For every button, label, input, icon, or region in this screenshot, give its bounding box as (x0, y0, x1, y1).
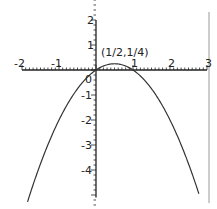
vertex-annotation: (1/2,1/4) (101, 46, 149, 59)
x-tick-label: -1 (51, 57, 62, 70)
tick-labels: -2-112321-1-2-3-4 (14, 14, 212, 177)
y-tick-label: 1 (87, 39, 94, 52)
y-tick-label: 2 (87, 14, 94, 27)
y-tick-label: -1 (81, 89, 92, 102)
y-tick-label: -3 (81, 139, 92, 152)
axes (22, 0, 207, 209)
parabola-plot: -2-112321-1-2-3-4 (1/2,1/4) 0 (0, 0, 217, 209)
parabola-curve (28, 64, 199, 202)
x-tick-label: -2 (14, 57, 25, 70)
x-tick-label: 2 (168, 57, 175, 70)
y-tick-label: -4 (81, 164, 92, 177)
x-tick-label: 3 (205, 57, 212, 70)
origin-label: 0 (85, 73, 92, 86)
y-tick-label: -2 (81, 114, 92, 127)
